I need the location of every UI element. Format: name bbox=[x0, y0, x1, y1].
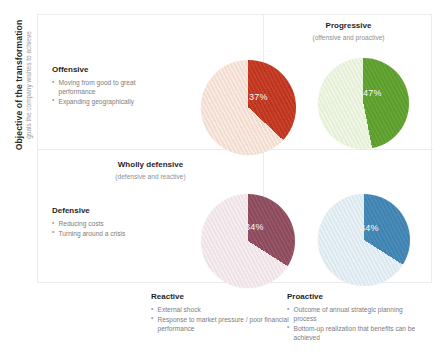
x-axis-labels: Reactive External shock Response to mark… bbox=[37, 292, 441, 362]
quadrant-offensive-reactive: Offensive Moving from good to great perf… bbox=[38, 15, 263, 149]
pie-chart-defensive-proactive: 34% bbox=[318, 194, 410, 286]
list-item: Reducing costs bbox=[52, 219, 160, 228]
pie-chart-progressive: 47% bbox=[318, 58, 409, 149]
list-item: Turning around a crisis bbox=[52, 229, 160, 238]
wholly-defensive-title: Wholly defensive bbox=[38, 160, 263, 170]
defensive-bullet-list: Reducing costs Turning around a crisis bbox=[52, 219, 160, 238]
y-axis-label: Objective of the transformation goals th… bbox=[11, 0, 37, 185]
defensive-text-block: Defensive Reducing costs Turning around … bbox=[52, 206, 160, 238]
pie-hatch-overlay bbox=[318, 194, 410, 286]
quadrant-wholly-defensive: Wholly defensive (defensive and reactive… bbox=[38, 150, 263, 284]
offensive-text-block: Offensive Moving from good to great perf… bbox=[52, 65, 160, 106]
wholly-defensive-text-block: Wholly defensive (defensive and reactive… bbox=[38, 160, 263, 182]
progressive-subtitle: (offensive and proactive) bbox=[264, 34, 433, 43]
reactive-text-block: Reactive External shock Response to mark… bbox=[151, 292, 291, 333]
reactive-bullet-list: External shock Response to market pressu… bbox=[151, 305, 291, 333]
list-item: Outcome of annual strategic planning pro… bbox=[287, 305, 427, 323]
list-item: Response to market pressure / poor finan… bbox=[151, 315, 291, 333]
wholly-defensive-subtitle: (defensive and reactive) bbox=[38, 173, 263, 182]
list-item: Expanding geographically bbox=[52, 97, 160, 106]
y-axis-title: Objective of the transformation bbox=[15, 20, 25, 151]
pie-hatch-overlay bbox=[318, 58, 409, 149]
list-item: Moving from good to great performance bbox=[52, 78, 160, 96]
offensive-title: Offensive bbox=[52, 65, 160, 75]
clipped-supertitle bbox=[0, 0, 441, 10]
proactive-bullet-list: Outcome of annual strategic planning pro… bbox=[287, 305, 427, 342]
proactive-title: Proactive bbox=[287, 292, 427, 302]
defensive-title: Defensive bbox=[52, 206, 160, 216]
pie-value-label: 47% bbox=[363, 88, 382, 98]
strategy-matrix-figure: Objective of the transformation goals th… bbox=[0, 0, 441, 364]
list-item: External shock bbox=[151, 305, 291, 314]
reactive-title: Reactive bbox=[151, 292, 291, 302]
pie-shape: 34% bbox=[318, 194, 410, 286]
progressive-title: Progressive bbox=[264, 21, 433, 31]
pie-value-label: 34% bbox=[245, 222, 264, 232]
proactive-text-block: Proactive Outcome of annual strategic pl… bbox=[287, 292, 427, 342]
progressive-text-block: Progressive (offensive and proactive) bbox=[264, 21, 433, 43]
quadrant-defensive-proactive: 34% bbox=[264, 150, 433, 284]
y-axis-subtitle: goals the company wishes to achieve bbox=[25, 31, 33, 139]
matrix-frame: Offensive Moving from good to great perf… bbox=[37, 14, 432, 283]
pie-shape: 47% bbox=[318, 58, 409, 149]
pie-value-label: 34% bbox=[360, 223, 379, 233]
offensive-bullet-list: Moving from good to great performance Ex… bbox=[52, 78, 160, 106]
list-item: Bottom-up realization that benefits can … bbox=[287, 324, 427, 342]
quadrant-progressive: Progressive (offensive and proactive) 47… bbox=[264, 15, 433, 149]
